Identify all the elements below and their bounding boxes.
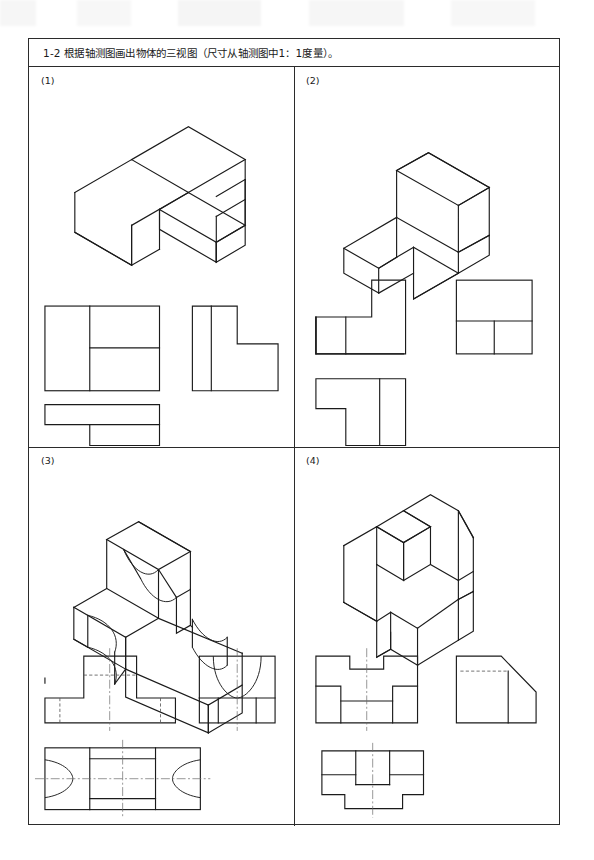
figure-3 (29, 447, 294, 827)
isometric-view-4 (344, 494, 474, 664)
side-view-3 (199, 648, 275, 731)
front-view-4 (316, 648, 418, 731)
top-view-1 (45, 405, 160, 446)
side-view-4 (456, 656, 536, 723)
figure-2 (294, 67, 559, 447)
top-view-3 (35, 739, 210, 817)
isometric-view-2 (344, 153, 489, 299)
isometric-view-1 (75, 127, 245, 265)
front-view-2 (316, 280, 406, 354)
scan-noise-band (0, 0, 594, 26)
top-view-4 (322, 742, 424, 817)
figure-1 (29, 67, 294, 447)
side-view-2 (456, 280, 532, 354)
front-view-1 (45, 306, 160, 391)
problem-cell-3: (3) (29, 447, 294, 827)
problem-cell-2: (2) (294, 67, 559, 447)
title-bar: 1-2 根据轴测图画出物体的三视图（尺寸从轴测图中1：1度量）。 (29, 39, 559, 67)
top-view-2 (316, 379, 406, 446)
side-view-1 (192, 306, 278, 391)
problem-grid: (1) (29, 67, 559, 826)
problem-cell-4: (4) (294, 447, 559, 827)
isometric-view-3 (74, 521, 242, 732)
page-title: 1-2 根据轴测图画出物体的三视图（尺寸从轴测图中1：1度量）。 (29, 45, 338, 60)
figure-4 (294, 447, 559, 827)
problem-cell-1: (1) (29, 67, 294, 447)
worksheet-sheet: 1-2 根据轴测图画出物体的三视图（尺寸从轴测图中1：1度量）。 (1) (28, 38, 560, 825)
